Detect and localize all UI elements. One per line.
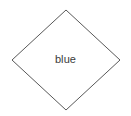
diagram-canvas: blue bbox=[0, 0, 131, 116]
diamond-shape-svg bbox=[0, 0, 131, 116]
diamond-shape[interactable] bbox=[12, 10, 120, 110]
